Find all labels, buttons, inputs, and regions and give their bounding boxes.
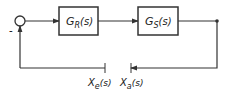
xa-label: Xa(s): [119, 77, 143, 91]
xe-label: Xe(s): [87, 77, 112, 91]
block-diagram: - GR(s) GS(s) Xe(s) Xa(s): [0, 0, 227, 97]
summing-junction: [15, 16, 25, 26]
minus-sign: -: [9, 25, 13, 36]
